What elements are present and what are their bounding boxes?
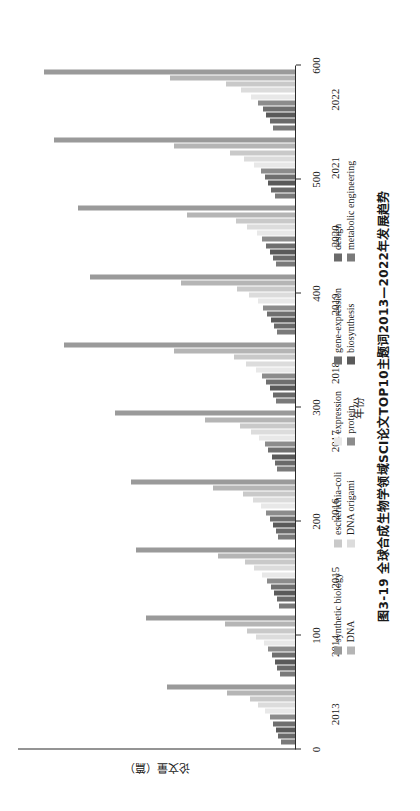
bar — [90, 274, 295, 279]
bar — [273, 721, 295, 726]
bar — [273, 392, 295, 397]
value-axis-tick — [296, 520, 301, 521]
legend-swatch — [334, 437, 342, 445]
chart-legend: synthetic biologyDNAescherichia-coliDNA … — [332, 65, 356, 749]
bar — [263, 305, 295, 310]
legend-swatch — [334, 646, 342, 654]
legend-label: DNA — [345, 620, 356, 642]
bar — [266, 379, 295, 384]
bar — [280, 671, 295, 676]
bar — [274, 323, 295, 328]
bar — [266, 243, 295, 248]
bar — [259, 435, 295, 440]
legend-column: gene-expressionbiosynthesis — [332, 287, 356, 364]
bar — [243, 491, 295, 496]
bar — [256, 367, 295, 372]
legend-item: design — [332, 160, 343, 261]
bar — [54, 137, 295, 142]
bar — [205, 417, 295, 422]
bar — [245, 559, 295, 564]
legend-label: escherichia-coli — [332, 471, 343, 534]
bar — [277, 329, 295, 334]
bar — [262, 373, 295, 378]
bar — [270, 118, 295, 123]
legend-label: metabolic engineering — [345, 160, 356, 249]
bar-group: 2015 — [18, 543, 295, 611]
bar — [278, 733, 295, 738]
bar — [174, 143, 295, 148]
bar — [268, 180, 295, 185]
legend-label: synthetic biology — [332, 573, 343, 642]
bar — [78, 205, 295, 210]
bar-groups: 2013201420152016201720182019202020212022 — [18, 65, 295, 748]
bar — [174, 348, 295, 353]
bar — [266, 112, 295, 117]
bar — [247, 224, 295, 229]
legend-column: synthetic biologyDNA — [332, 573, 356, 654]
legend-swatch — [334, 539, 342, 547]
bar — [226, 81, 295, 86]
legend-swatch — [334, 253, 342, 261]
bar — [278, 534, 295, 539]
value-axis-title: 论文量（篇） — [124, 760, 190, 776]
bar — [276, 528, 295, 533]
value-axis-tick-label: 100 — [310, 627, 322, 644]
bar — [268, 646, 295, 651]
bar — [276, 398, 295, 403]
legend-label: gene-expression — [332, 287, 343, 352]
bar — [273, 125, 295, 130]
bar-group: 2021 — [18, 133, 295, 201]
legend-item: DNA origami — [345, 471, 356, 546]
legend-item: DNA — [345, 573, 356, 654]
bar-chart-plot: 0100200300400500600 论文量（篇） 2013201420152… — [18, 65, 296, 749]
bar — [270, 385, 295, 390]
bar — [261, 168, 295, 173]
bar — [272, 454, 295, 459]
bar — [218, 553, 295, 558]
bar — [227, 690, 295, 695]
value-axis-tick-label: 200 — [310, 513, 322, 530]
legend-swatch — [347, 646, 355, 654]
legend-column: designmetabolic engineering — [332, 160, 356, 261]
value-axis-tick-label: 0 — [310, 746, 322, 752]
bar — [271, 584, 295, 589]
legend-label: design — [332, 223, 343, 249]
bar — [64, 342, 295, 347]
value-axis-tick — [296, 64, 301, 65]
legend-swatch — [347, 356, 355, 364]
bar — [274, 590, 295, 595]
bar — [258, 100, 295, 105]
bar — [272, 652, 295, 657]
value-axis-tick — [296, 748, 301, 749]
bar-group: 2017 — [18, 407, 295, 475]
bar — [275, 659, 295, 664]
value-axis-tick — [296, 292, 301, 293]
legend-swatch — [334, 356, 342, 364]
bar — [273, 255, 295, 260]
bar — [167, 684, 295, 689]
legend-swatch — [347, 253, 355, 261]
legend-item: escherichia-coli — [332, 471, 343, 546]
bar — [234, 354, 295, 359]
value-axis-tick-label: 500 — [310, 171, 322, 188]
bar — [256, 634, 295, 639]
bar — [257, 230, 295, 235]
legend-item: biosynthesis — [345, 287, 356, 364]
legend-label: expression — [332, 390, 343, 433]
legend-column: expressionprotein — [332, 390, 356, 445]
bar — [213, 485, 295, 490]
bar — [247, 628, 295, 633]
bar-group: 2016 — [18, 475, 295, 543]
value-axis-tick — [296, 178, 301, 179]
bar — [266, 510, 295, 515]
bar — [277, 596, 295, 601]
bar — [230, 150, 295, 155]
value-axis-tick — [296, 634, 301, 635]
bar — [253, 497, 295, 502]
bar — [240, 423, 295, 428]
bar — [258, 298, 295, 303]
legend-label: DNA origami — [345, 480, 356, 535]
bar — [264, 640, 295, 645]
bar — [181, 280, 295, 285]
legend-swatch — [347, 539, 355, 547]
